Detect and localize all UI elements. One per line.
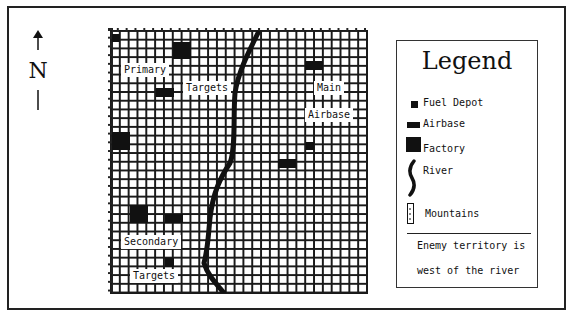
- legend-factory-label: Factory: [423, 143, 465, 154]
- factory-icon: [406, 137, 421, 152]
- label-main: Main: [314, 81, 344, 95]
- legend-title: Legend: [397, 47, 537, 75]
- legend-river-label: River: [423, 165, 453, 176]
- legend-divider: [407, 233, 531, 234]
- airbase-icon: [407, 122, 420, 128]
- legend-box: Legend Fuel Depot Airbase Factory River …: [396, 40, 538, 288]
- north-label: N: [26, 58, 50, 83]
- label-secondary-targets: Targets: [130, 269, 178, 283]
- label-primary-targets: Targets: [183, 81, 231, 95]
- legend-fuel-depot-label: Fuel Depot: [423, 97, 483, 108]
- river-icon: [405, 159, 419, 197]
- fuel-depot-icon: [411, 101, 418, 108]
- legend-mountains-label: Mountains: [425, 208, 479, 219]
- label-airbase: Airbase: [305, 108, 353, 122]
- legend-airbase-label: Airbase: [423, 118, 465, 129]
- label-secondary: Secondary: [121, 235, 181, 249]
- label-primary: Primary: [121, 63, 169, 77]
- map-area: Primary Targets Main Airbase Secondary T…: [108, 28, 366, 293]
- mountains-icon: [407, 203, 415, 225]
- legend-note-line2: west of the river: [417, 265, 519, 276]
- north-indicator: N: [26, 28, 50, 118]
- legend-note-line1: Enemy territory is: [417, 240, 525, 251]
